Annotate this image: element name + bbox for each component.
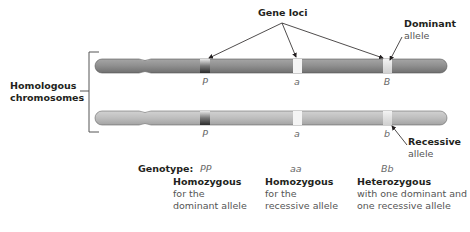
genotype-bb: Bb bbox=[381, 163, 394, 175]
locus-b-top bbox=[383, 59, 392, 73]
gene-loci-label: Gene loci bbox=[258, 7, 307, 19]
col2-line2: recessive allele bbox=[265, 200, 338, 212]
top-locus-letter-a: a bbox=[289, 76, 305, 87]
recessive-allele-label: allele bbox=[408, 148, 433, 160]
col2-line1: for the bbox=[265, 188, 297, 200]
recessive-label: Recessive bbox=[408, 136, 461, 148]
col1-line2: dominant allele bbox=[173, 200, 247, 212]
top-chromosome bbox=[95, 59, 447, 73]
bottom-locus-letter-b: b bbox=[379, 128, 395, 139]
col3-line1: with one dominant and bbox=[357, 188, 467, 200]
homologous-label-line1: Homologous bbox=[10, 80, 76, 92]
bottom-locus-letter-p: P bbox=[197, 128, 213, 139]
top-locus-letter-p: P bbox=[197, 76, 213, 87]
locus-a-top bbox=[293, 59, 302, 73]
locus-p-top bbox=[200, 59, 210, 73]
genotype-aa: aa bbox=[290, 163, 302, 175]
col3-heading: Heterozygous bbox=[357, 176, 431, 188]
locus-b-bottom bbox=[383, 111, 392, 125]
homologous-label-line2: chromosomes bbox=[10, 92, 84, 104]
dominant-label: Dominant bbox=[404, 18, 456, 30]
col1-heading: Homozygous bbox=[173, 176, 241, 188]
col2-heading: Homozygous bbox=[265, 176, 333, 188]
locus-p-bottom bbox=[200, 111, 210, 125]
top-locus-letter-b: B bbox=[379, 76, 395, 87]
dominant-allele-label: allele bbox=[404, 30, 429, 42]
gene-loci-arrows bbox=[209, 23, 383, 58]
genotype-label: Genotype: bbox=[138, 163, 193, 175]
col1-line1: for the bbox=[173, 188, 205, 200]
genotype-pp: PP bbox=[200, 163, 211, 175]
dominant-pointer bbox=[390, 37, 402, 60]
bottom-chromosome bbox=[95, 111, 447, 125]
col3-line2: one recessive allele bbox=[357, 200, 451, 212]
locus-a-bottom bbox=[293, 111, 302, 125]
bottom-locus-letter-a: a bbox=[289, 128, 305, 139]
